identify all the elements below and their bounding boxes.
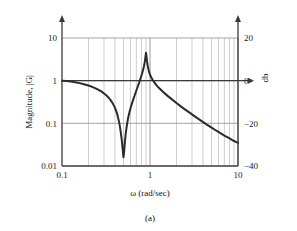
y-axis-title: Magnitude, |G| [24, 75, 34, 129]
x-axis-tick-labels: 0.1110 [56, 170, 243, 180]
x-tick-label: 10 [234, 170, 244, 180]
y-axis-tick-labels: 0.010.1110 [41, 33, 57, 171]
x-axis-title: ω (rad/sec) [130, 188, 170, 198]
y-tick-label: 0.01 [41, 161, 57, 171]
y2-axis-tick-labels: −40−20020 [244, 33, 259, 171]
y-tick-label: 1 [53, 76, 58, 86]
x-major-gridlines [150, 38, 238, 166]
y2-tick-label: 20 [244, 33, 254, 43]
y2-tick-label: 0 [244, 76, 249, 86]
zero-db-reference-line [62, 78, 254, 84]
y-tick-label: 0.1 [46, 119, 57, 129]
y2-tick-label: −20 [244, 119, 259, 129]
x-minor-gridlines [88, 38, 233, 166]
y-tick-label: 10 [48, 33, 58, 43]
x-tick-label: 0.1 [56, 170, 67, 180]
bode-magnitude-figure: 0.010.1110 −40−20020 0.1110 Magnitude, |… [0, 0, 297, 231]
figure-caption: (a) [145, 213, 155, 223]
chart-canvas: 0.010.1110 −40−20020 0.1110 Magnitude, |… [0, 0, 297, 231]
y2-axis-title: db [260, 73, 270, 83]
x-tick-label: 1 [148, 170, 153, 180]
y2-tick-label: −40 [244, 161, 259, 171]
